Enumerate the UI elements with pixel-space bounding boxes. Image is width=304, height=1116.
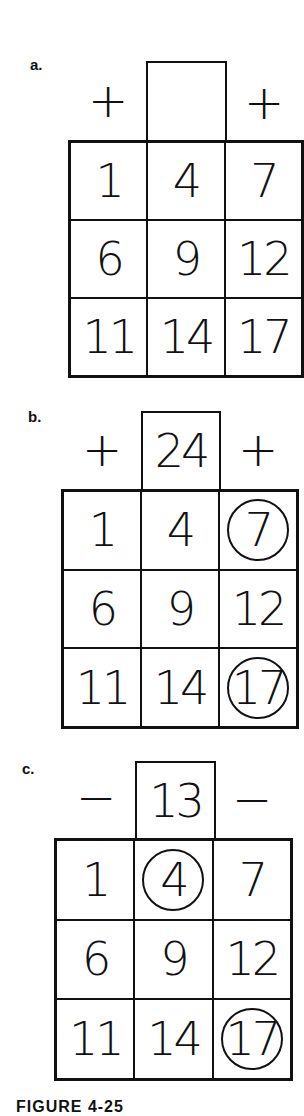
panel-label: c.: [22, 760, 35, 777]
grid-cell: 12: [213, 920, 291, 1000]
grid-cell: 14: [134, 999, 212, 1079]
grid-cell: 6: [56, 920, 134, 1000]
grid-cell: 7: [213, 840, 291, 920]
number-grid: 1 4 7 6 9 12 11 14 17: [54, 838, 293, 1081]
left-operator: −: [66, 773, 126, 821]
grid-cell: 9: [134, 920, 212, 1000]
circle-mark: 17: [221, 1008, 283, 1070]
right-operator: −: [222, 775, 282, 823]
figure-caption: FIGURE 4-25: [16, 1098, 124, 1116]
grid-cell: 11: [56, 999, 134, 1079]
circle-mark: 4: [142, 849, 204, 911]
target-box: 13: [135, 761, 216, 841]
grid-cell: 1: [56, 840, 134, 920]
grid-cell-circled: 17: [213, 999, 291, 1079]
grid-cell-circled: 4: [134, 840, 212, 920]
target-value: 13: [149, 774, 202, 828]
